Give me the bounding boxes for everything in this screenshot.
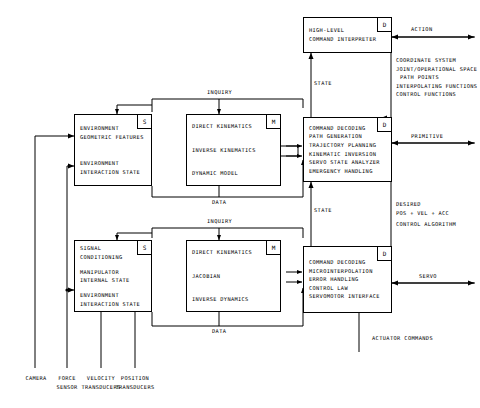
signal-cond-group: SIGNAL CONDITIONING bbox=[80, 244, 137, 261]
box-model-upper[interactable]: M DIRECT KINEMATICS INVERSE KINEMATICS D… bbox=[186, 114, 281, 186]
env-interaction-lower-line-1: ENVIRONMENT bbox=[80, 291, 137, 300]
annotation-primitive-output: DESIRED POS + VEL + ACC CONTROL ALGORITH… bbox=[396, 200, 456, 229]
high-level-out-3: PATH POINTS bbox=[396, 73, 477, 82]
model-lower-line-2: JACOBIAN bbox=[192, 272, 266, 281]
annotation-high-level-output: COORDINATE SYSTEM JOINT/OPERATIONAL SPAC… bbox=[396, 56, 477, 99]
badge-signal-conditioning: S bbox=[137, 241, 151, 255]
box-signal-conditioning[interactable]: S SIGNAL CONDITIONING MANIPULATOR INTERN… bbox=[74, 240, 152, 312]
primitive-level-line-6: EMERGENCY HANDLING bbox=[309, 167, 377, 176]
box-model-lower[interactable]: M DIRECT KINEMATICS JACOBIAN INVERSE DYN… bbox=[186, 240, 281, 312]
primitive-level-line-2: PATH GENERATION bbox=[309, 132, 377, 141]
badge-high-level: D bbox=[377, 18, 391, 32]
high-level-line-1: HIGH-LEVEL bbox=[309, 26, 377, 35]
label-actuator-commands: ACTUATOR COMMANDS bbox=[372, 335, 433, 343]
env-interaction-line-1: ENVIRONMENT bbox=[80, 159, 137, 168]
diagram-canvas: D HIGH-LEVEL COMMAND INTERPRETER S ENVIR… bbox=[0, 0, 480, 408]
env-interaction-group: ENVIRONMENT INTERACTION STATE bbox=[80, 159, 137, 176]
high-level-out-1: COORDINATE SYSTEM bbox=[396, 56, 477, 65]
sensor-label-position-transducers: POSITION TRANSDUCERS bbox=[105, 374, 165, 391]
model-upper-lines: DIRECT KINEMATICS INVERSE KINEMATICS DYN… bbox=[192, 115, 266, 185]
label-action: ACTION bbox=[411, 26, 433, 34]
box-environment-sensing[interactable]: S ENVIRONMENT GEOMETRIC FEATURES ENVIRON… bbox=[74, 114, 152, 186]
env-interaction-lower-group: ENVIRONMENT INTERACTION STATE bbox=[80, 291, 137, 308]
primitive-out-2: POS + VEL + ACC bbox=[396, 209, 456, 218]
primitive-level-lines: COMMAND DECODING PATH GENERATION TRAJECT… bbox=[309, 118, 377, 181]
servo-level-line-1: COMMAND DECODING bbox=[309, 258, 377, 267]
primitive-level-line-3: TRAJECTORY PLANNING bbox=[309, 141, 377, 150]
model-lower-lines: DIRECT KINEMATICS JACOBIAN INVERSE DYNAM… bbox=[192, 241, 266, 311]
label-data-upper: DATA bbox=[212, 199, 226, 207]
sensor-position-line-2: TRANSDUCERS bbox=[105, 383, 165, 392]
primitive-level-line-4: KINEMATIC INVERSION bbox=[309, 150, 377, 159]
signal-cond-line-1: SIGNAL bbox=[80, 244, 137, 253]
model-upper-line-2: INVERSE KINEMATICS bbox=[192, 146, 266, 155]
env-geometric-line-2: GEOMETRIC FEATURES bbox=[80, 133, 137, 142]
badge-model-lower: M bbox=[266, 241, 280, 255]
primitive-level-line-1: COMMAND DECODING bbox=[309, 124, 377, 133]
high-level-out-4: INTERPOLATING FUNCTIONS bbox=[396, 82, 477, 91]
manipulator-state-group: MANIPULATOR INTERNAL STATE bbox=[80, 268, 137, 285]
primitive-out-3: CONTROL ALGORITHM bbox=[396, 220, 456, 229]
high-level-out-5: CONTROL FUNCTIONS bbox=[396, 90, 477, 99]
servo-level-lines: COMMAND DECODING MICROINTERPOLATION ERRO… bbox=[309, 247, 377, 312]
servo-level-line-5: SERVOMOTOR INTERFACE bbox=[309, 292, 377, 301]
signal-cond-line-2: CONDITIONING bbox=[80, 253, 137, 262]
sensor-position-line-1: POSITION bbox=[105, 374, 165, 383]
badge-environment-sensing: S bbox=[137, 115, 151, 129]
high-level-out-2: JOINT/OPERATIONAL SPACE bbox=[396, 65, 477, 74]
env-geometric-group: ENVIRONMENT GEOMETRIC FEATURES bbox=[80, 124, 137, 141]
box-servo-level[interactable]: D COMMAND DECODING MICROINTERPOLATION ER… bbox=[303, 246, 392, 313]
primitive-level-line-5: SERVO STATE ANALYZER bbox=[309, 158, 377, 167]
high-level-line-2: COMMAND INTERPRETER bbox=[309, 35, 377, 44]
env-interaction-line-2: INTERACTION STATE bbox=[80, 168, 137, 177]
label-inquiry-lower: INQUIRY bbox=[207, 218, 232, 226]
box-high-level-command-interpreter[interactable]: D HIGH-LEVEL COMMAND INTERPRETER bbox=[303, 17, 392, 53]
env-geometric-line-1: ENVIRONMENT bbox=[80, 124, 137, 133]
env-interaction-lower-line-2: INTERACTION STATE bbox=[80, 300, 137, 309]
servo-level-line-4: CONTROL LAW bbox=[309, 284, 377, 293]
servo-level-line-2: MICROINTERPOLATION bbox=[309, 267, 377, 276]
model-lower-line-3: INVERSE DYNAMICS bbox=[192, 295, 266, 304]
servo-level-line-3: ERROR HANDLING bbox=[309, 275, 377, 284]
primitive-out-1: DESIRED bbox=[396, 200, 456, 209]
model-upper-line-1: DIRECT KINEMATICS bbox=[192, 122, 266, 131]
label-state-mid: STATE bbox=[314, 207, 332, 215]
badge-primitive-level: D bbox=[377, 118, 391, 132]
label-data-lower: DATA bbox=[212, 328, 226, 336]
label-state-top: STATE bbox=[314, 80, 332, 88]
label-servo: SERVO bbox=[419, 273, 437, 281]
box-primitive-level[interactable]: D COMMAND DECODING PATH GENERATION TRAJE… bbox=[303, 117, 392, 182]
badge-model-upper: M bbox=[266, 115, 280, 129]
label-inquiry-upper: INQUIRY bbox=[207, 89, 232, 97]
label-primitive: PRIMITIVE bbox=[411, 133, 443, 141]
environment-sensing-lines: ENVIRONMENT GEOMETRIC FEATURES ENVIRONME… bbox=[80, 115, 137, 185]
manipulator-state-line-2: INTERNAL STATE bbox=[80, 276, 137, 285]
model-upper-line-3: DYNAMIC MODEL bbox=[192, 169, 266, 178]
high-level-lines: HIGH-LEVEL COMMAND INTERPRETER bbox=[309, 18, 377, 52]
badge-servo-level: D bbox=[377, 247, 391, 261]
signal-conditioning-lines: SIGNAL CONDITIONING MANIPULATOR INTERNAL… bbox=[80, 241, 137, 311]
model-lower-line-1: DIRECT KINEMATICS bbox=[192, 248, 266, 257]
manipulator-state-line-1: MANIPULATOR bbox=[80, 268, 137, 277]
